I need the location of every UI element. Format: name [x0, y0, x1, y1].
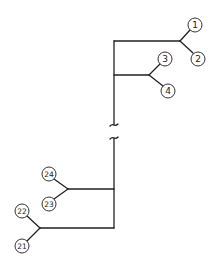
connector-3	[149, 64, 160, 75]
svg-text:4: 4	[165, 86, 171, 96]
connector-1	[180, 30, 190, 41]
node-24: 24	[42, 167, 56, 181]
svg-text:3: 3	[162, 54, 168, 64]
connector-23	[54, 189, 68, 199]
svg-text:22: 22	[17, 207, 27, 216]
connector-24	[54, 179, 68, 189]
node-1: 1	[188, 18, 202, 32]
node-23: 23	[42, 197, 56, 211]
break-mark-bottom	[110, 137, 118, 139]
break-mark-top	[110, 124, 118, 126]
svg-text:23: 23	[44, 200, 54, 209]
connector-22	[27, 216, 40, 228]
node-22: 22	[15, 204, 29, 218]
node-3: 3	[158, 52, 172, 66]
connector-2	[180, 41, 193, 53]
node-21: 21	[15, 239, 29, 253]
svg-text:2: 2	[195, 54, 201, 64]
svg-text:24: 24	[44, 170, 54, 179]
node-2: 2	[191, 52, 205, 66]
tree-diagram: 1 2 3 4 24 23 22 21	[0, 0, 217, 265]
svg-text:21: 21	[17, 242, 27, 251]
connector-4	[149, 75, 163, 86]
node-4: 4	[161, 84, 175, 98]
connector-21	[27, 228, 40, 241]
svg-text:1: 1	[192, 20, 198, 30]
